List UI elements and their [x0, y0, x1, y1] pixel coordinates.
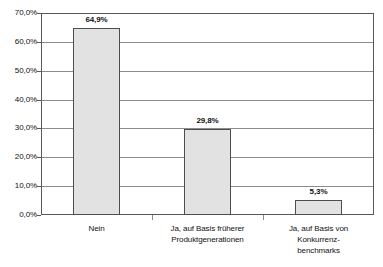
- x-axis-category-line: Konkurrenz-: [249, 234, 383, 245]
- x-axis-category-label: Ja, auf Basis vonKonkurrenz-benchmarks: [249, 223, 383, 256]
- bar-value-label: 29,8%: [168, 117, 248, 125]
- y-axis-label: 30,0%: [0, 124, 37, 132]
- bar: [295, 200, 342, 215]
- y-axis-tick: [37, 128, 41, 129]
- y-axis-label: 10,0%: [0, 182, 37, 190]
- y-axis-label: 60,0%: [0, 38, 37, 46]
- y-axis-tick: [37, 100, 41, 101]
- y-axis-tick: [37, 186, 41, 187]
- y-axis-label: 50,0%: [0, 67, 37, 75]
- y-axis-tick: [37, 215, 41, 216]
- y-axis-tick: [37, 71, 41, 72]
- y-axis-label: 70,0%: [0, 9, 37, 17]
- bar-value-label: 64,9%: [57, 16, 137, 24]
- y-axis-tick: [37, 13, 41, 14]
- y-axis-label: 20,0%: [0, 153, 37, 161]
- bar: [73, 28, 120, 215]
- y-axis-label: 40,0%: [0, 96, 37, 104]
- category-separator-tick: [263, 215, 264, 220]
- bar: [184, 129, 231, 215]
- y-axis-tick: [37, 42, 41, 43]
- category-separator-tick: [152, 215, 153, 220]
- x-axis-category-line: Ja, auf Basis von: [249, 223, 383, 234]
- bar-value-label: 5,3%: [279, 188, 359, 196]
- x-axis-category-line: benchmarks: [249, 245, 383, 256]
- bar-chart: 0,0%10,0%20,0%30,0%40,0%50,0%60,0%70,0% …: [0, 0, 383, 267]
- y-axis-label: 0,0%: [0, 211, 37, 219]
- y-axis-tick: [37, 157, 41, 158]
